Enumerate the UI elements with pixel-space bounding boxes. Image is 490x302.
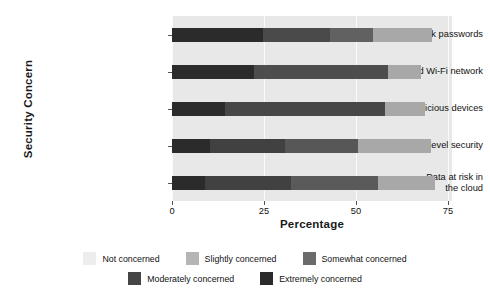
legend-label: Not concerned xyxy=(102,254,159,264)
legend-item[interactable]: Not concerned xyxy=(83,252,159,265)
bar-segment xyxy=(172,28,263,42)
x-axis-tick-label: 25 xyxy=(244,206,284,216)
legend-label: Extremely concerned xyxy=(279,274,362,284)
chart-legend: Not concernedSlightly concernedSomewhat … xyxy=(0,252,490,292)
legend-swatch xyxy=(303,252,316,265)
bar-stack xyxy=(172,102,425,116)
stacked-bar-chart: Security Concern Weak passwordsUnsecured… xyxy=(0,0,490,302)
legend-item[interactable]: Somewhat concerned xyxy=(303,252,407,265)
bar-stack xyxy=(172,176,435,190)
legend-swatch xyxy=(260,272,273,285)
bar-stack xyxy=(172,28,432,42)
bar-segment xyxy=(254,65,388,79)
bar-segment xyxy=(291,176,378,190)
legend-label: Slightly concerned xyxy=(205,254,277,264)
legend-swatch xyxy=(186,252,199,265)
legend-item[interactable]: Moderately concerned xyxy=(128,272,234,285)
x-axis-tick-mark xyxy=(448,201,449,205)
x-axis-title: Percentage xyxy=(172,218,452,230)
bar-segment xyxy=(385,102,425,116)
y-axis-title: Security Concern xyxy=(22,29,34,189)
legend-item[interactable]: Extremely concerned xyxy=(260,272,362,285)
bar-segment xyxy=(210,139,285,153)
bar-segment xyxy=(172,65,254,79)
bar-segment xyxy=(358,139,431,153)
x-axis-tick-mark xyxy=(172,201,173,205)
legend-label: Moderately concerned xyxy=(147,274,234,284)
legend-item[interactable]: Slightly concerned xyxy=(186,252,277,265)
legend-row-top: Not concernedSlightly concernedSomewhat … xyxy=(0,252,490,265)
bar-segment xyxy=(285,139,358,153)
legend-swatch xyxy=(83,252,96,265)
legend-swatch xyxy=(128,272,141,285)
x-axis-tick-label: 75 xyxy=(428,206,468,216)
legend-row-bottom: Moderately concernedExtremely concerned xyxy=(0,272,490,285)
bar-segment xyxy=(263,28,330,42)
bar-stack xyxy=(172,65,421,79)
bar-segment xyxy=(172,176,205,190)
bar-segment xyxy=(172,139,210,153)
x-axis-tick-mark xyxy=(264,201,265,205)
bar-stack xyxy=(172,139,431,153)
x-axis-tick-mark xyxy=(356,201,357,205)
bar-segment xyxy=(388,65,421,79)
bar-segment xyxy=(373,28,432,42)
bar-segment xyxy=(225,102,385,116)
legend-label: Somewhat concerned xyxy=(322,254,407,264)
bar-segment xyxy=(205,176,291,190)
x-axis-tick-label: 0 xyxy=(152,206,192,216)
bar-segment xyxy=(330,28,373,42)
bar-segment xyxy=(172,102,225,116)
bar-segment xyxy=(378,176,435,190)
x-axis-tick-label: 50 xyxy=(336,206,376,216)
